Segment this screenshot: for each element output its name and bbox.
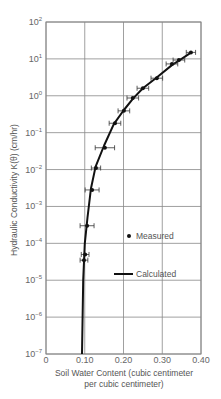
y-tick-label: 10−3 [25,200,43,211]
measured-point [95,145,114,150]
y-tick-label: 10−2 [25,164,43,175]
x-tick-label: 0.30 [153,355,171,365]
legend-measured-label: Measured [136,231,174,241]
measured-point [137,86,149,91]
measured-point [127,96,139,101]
x-tick-label: 0.40 [192,355,210,365]
x-tick-label: 0.10 [76,355,94,365]
y-tick-label: 10−1 [25,127,43,138]
measured-point [80,223,94,228]
measured-point [118,108,130,113]
x-axis-ticks: 00.100.200.300.40 [43,355,209,365]
x-axis-title-line2: per cubic centimeter) [84,379,164,389]
measured-point [80,258,88,263]
y-axis-ticks: 10210110010−110−210−310−410−510−610−7 [25,16,43,359]
measured-point [81,252,89,257]
x-tick-label: 0.20 [115,355,133,365]
legend-calculated-label: Calculated [136,269,176,279]
y-tick-label: 10−4 [25,237,43,248]
x-axis-title-line1: Soil Water Content (cubic centimeter [55,368,193,378]
y-tick-label: 10−5 [25,274,43,285]
y-tick-label: 102 [29,16,43,27]
legend-measured-marker [127,234,131,238]
y-tick-label: 100 [29,90,43,101]
y-tick-label: 101 [29,53,43,64]
x-tick-label: 0 [43,355,48,365]
hydraulic-conductivity-chart: 10210110010−110−210−310−410−510−610−7 00… [0,0,221,399]
y-tick-label: 10−6 [25,311,43,322]
y-tick-label: 10−7 [25,348,43,359]
measured-point [85,187,99,192]
y-axis-title: Hydraulic Conductivity K(θ) (cm/hr) [9,124,19,256]
plot-grid [46,22,201,354]
measured-point [109,121,121,126]
